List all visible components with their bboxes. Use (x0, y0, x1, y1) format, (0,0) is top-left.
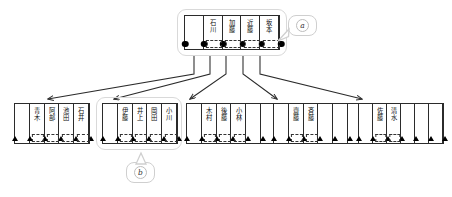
leaf3-cell-1[interactable]: 木村 (202, 104, 217, 143)
leaf4-cell-4[interactable] (333, 104, 348, 143)
leaf2-cell-2-label: 井上 (136, 107, 143, 120)
callout-b-label: b (134, 166, 147, 179)
leaf1-cell-4-label: 石井 (77, 107, 84, 120)
leaf1-cell-4[interactable]: 石井 (74, 104, 89, 143)
root-cell-3-label: 近藤 (247, 19, 254, 32)
leaf3-cell-3-label: 小林 (235, 107, 242, 120)
leaf-group-3[interactable]: 木村後藤小林 (186, 103, 277, 144)
leaf4-cell-3[interactable] (318, 104, 333, 143)
arrow-to-leaf-group-5 (260, 55, 362, 99)
root-cell-1-label: 石川 (209, 19, 216, 32)
root-cell-3[interactable]: 近藤 (241, 16, 260, 49)
arrow-to-leaf-group-2 (114, 55, 210, 99)
leaf1-cell-0[interactable] (15, 104, 30, 143)
root-cell-2[interactable]: 加藤 (223, 16, 242, 49)
callout-bubble-a: a (288, 15, 317, 36)
diagram-canvas: 石川加藤近藤坂本 青木阿部池田石井 伊藤井上岡田小川 木村後藤小林 齋藤斉藤 佐… (0, 0, 452, 197)
arrow-to-leaf-group-1 (48, 55, 194, 99)
leaf4-cell-2-label: 斉藤 (307, 107, 314, 120)
leaf4-cell-1[interactable]: 齋藤 (289, 104, 304, 143)
leaf1-cell-3-label: 池田 (63, 107, 70, 120)
root-node-table[interactable]: 石川加藤近藤坂本 (184, 15, 280, 50)
leaf2-cell-2[interactable]: 井上 (133, 104, 148, 143)
leaf2-cell-0[interactable] (103, 104, 118, 143)
leaf1-cell-2-label: 阿部 (48, 107, 55, 120)
leaf5-cell-2[interactable]: 清水 (387, 104, 401, 143)
leaf3-cell-4[interactable] (246, 104, 261, 143)
leaf2-cell-1[interactable]: 伊藤 (118, 104, 133, 143)
leaf1-cell-3[interactable]: 池田 (59, 104, 74, 143)
leaf1-cell-1[interactable]: 青木 (30, 104, 45, 143)
leaf3-cell-2-label: 後藤 (220, 107, 227, 120)
leaf3-cell-3[interactable]: 小林 (231, 104, 246, 143)
arrow-to-leaf-group-3 (190, 55, 226, 99)
leaf1-cell-2[interactable]: 阿部 (45, 104, 60, 143)
root-cell-2-label: 加藤 (228, 19, 235, 32)
leaf4-cell-0[interactable] (274, 104, 289, 143)
leaf-group-1[interactable]: 青木阿部池田石井 (14, 103, 90, 144)
root-cell-4-label: 坂本 (265, 19, 272, 32)
callout-a-label: a (296, 19, 309, 32)
leaf3-cell-0[interactable] (187, 104, 202, 143)
callout-b-tail (134, 152, 150, 166)
root-cell-1[interactable]: 石川 (204, 16, 223, 49)
leaf2-cell-3-label: 岡田 (151, 107, 158, 120)
leaf2-cell-3[interactable]: 岡田 (147, 104, 162, 143)
leaf-group-5[interactable]: 佐藤清水 (358, 103, 444, 144)
leaf2-cell-4-label: 小川 (165, 107, 172, 120)
leaf1-cell-1-label: 青木 (33, 107, 40, 120)
leaf-group-2[interactable]: 伊藤井上岡田小川 (102, 103, 178, 144)
leaf5-cell-3[interactable] (401, 104, 415, 143)
leaf4-cell-1-label: 齋藤 (292, 107, 299, 120)
root-cell-0[interactable] (185, 16, 204, 49)
leaf5-cell-1-label: 佐藤 (376, 107, 383, 120)
leaf3-cell-2[interactable]: 後藤 (217, 104, 232, 143)
leaf5-cell-4[interactable] (415, 104, 429, 143)
leaf5-cell-2-label: 清水 (390, 107, 397, 120)
leaf2-cell-4[interactable]: 小川 (162, 104, 177, 143)
leaf2-cell-1-label: 伊藤 (121, 107, 128, 120)
leaf-group-4[interactable]: 齋藤斉藤 (273, 103, 364, 144)
leaf5-cell-1[interactable]: 佐藤 (373, 104, 387, 143)
leaf5-cell-0[interactable] (359, 104, 373, 143)
callout-a-tail (276, 28, 292, 44)
leaf4-cell-2[interactable]: 斉藤 (304, 104, 319, 143)
leaf3-cell-1-label: 木村 (205, 107, 212, 120)
leaf5-cell-5[interactable] (429, 104, 443, 143)
